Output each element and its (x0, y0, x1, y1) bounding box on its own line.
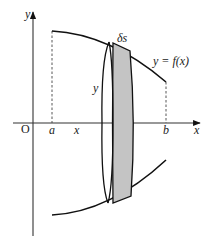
shaded-slice (113, 43, 134, 203)
a-label: a (49, 123, 55, 137)
delta-s-label: δs (117, 31, 128, 45)
x-axis-label: x (193, 123, 200, 137)
x-position-label: x (73, 123, 80, 137)
solid-of-revolution-diagram: y O a x b x δs y = f(x) y (0, 0, 215, 247)
origin-label: O (21, 122, 30, 136)
radius-label: y (92, 81, 99, 95)
y-axis-label: y (24, 7, 31, 21)
function-label: y = f(x) (152, 54, 189, 68)
upper-curve (52, 31, 166, 82)
lower-curve (52, 160, 166, 215)
b-label: b (163, 123, 169, 137)
